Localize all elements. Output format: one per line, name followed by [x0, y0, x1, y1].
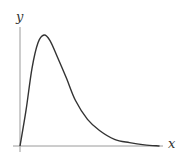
x-axis-label: x	[168, 137, 175, 150]
plot-canvas	[0, 0, 188, 162]
density-curve	[20, 35, 160, 146]
y-axis-label: y	[16, 10, 23, 23]
